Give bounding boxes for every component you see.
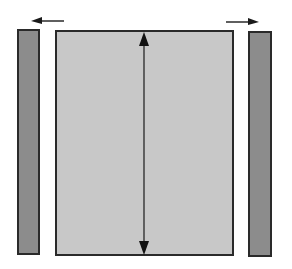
vertical-double-arrow-icon — [139, 32, 149, 255]
right-arrow-icon — [226, 18, 259, 25]
arrows-layer — [0, 0, 292, 269]
left-arrow-icon — [31, 17, 64, 24]
